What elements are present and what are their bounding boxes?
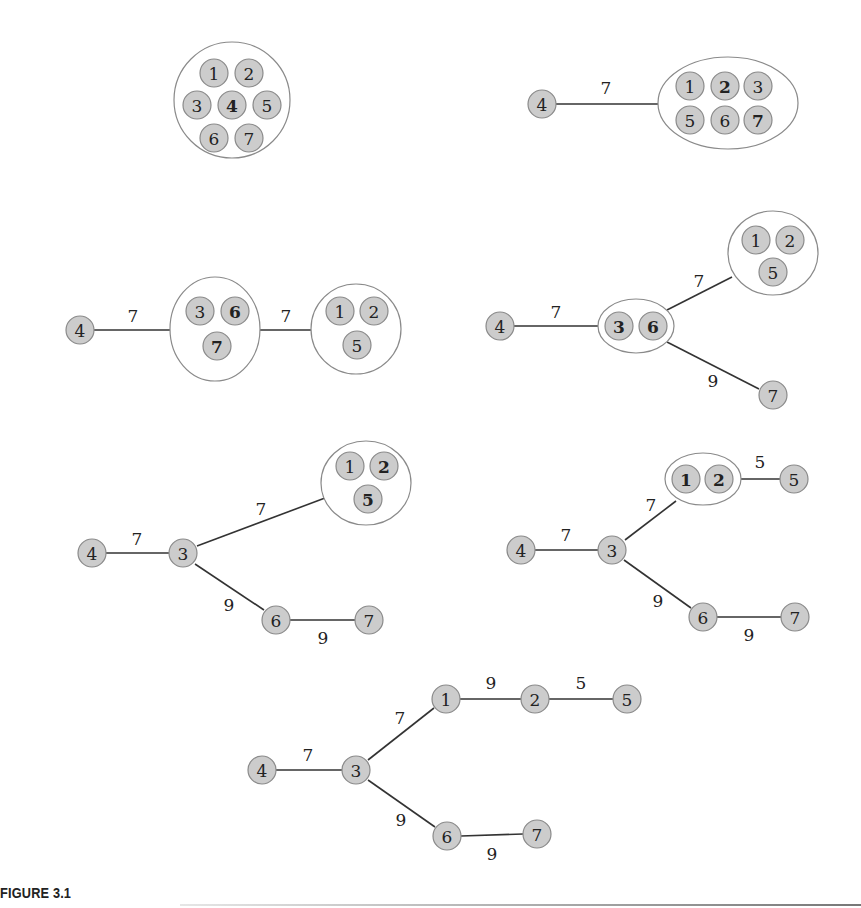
node: 1 [676, 72, 704, 100]
node: 7 [355, 606, 383, 634]
node-label: 3 [753, 77, 764, 97]
node: 3 [169, 539, 197, 567]
panel-7: 7795994312567 [248, 673, 641, 864]
node: 3 [186, 297, 214, 325]
edge-weight: 9 [653, 591, 664, 611]
panel-3: 774367125 [66, 277, 401, 381]
node: 6 [200, 124, 228, 152]
node-label: 2 [369, 302, 380, 322]
edge-weight: 9 [224, 595, 235, 615]
node-label: 6 [229, 302, 241, 322]
node-label: 2 [719, 77, 731, 97]
node-label: 4 [75, 321, 86, 341]
panel-2: 74123567 [528, 57, 798, 149]
node: 5 [253, 91, 281, 119]
node-label: 5 [352, 336, 363, 356]
edge-weight: 7 [646, 495, 657, 515]
node-label: 5 [622, 690, 633, 710]
node-label: 1 [345, 457, 356, 477]
node-label: 7 [364, 611, 375, 631]
cluster-group [311, 284, 401, 374]
node-label: 2 [713, 470, 725, 490]
node-label: 6 [442, 827, 453, 847]
node: 1 [672, 465, 700, 493]
node: 4 [218, 91, 246, 119]
node: 1 [336, 452, 364, 480]
node-label: 7 [752, 111, 764, 131]
node: 6 [689, 603, 717, 631]
node: 2 [360, 297, 388, 325]
edge-weight: 7 [601, 78, 612, 98]
node: 5 [343, 331, 371, 359]
node: 6 [433, 822, 461, 850]
node: 2 [521, 685, 549, 713]
node: 7 [781, 603, 809, 631]
node-label: 7 [768, 386, 779, 406]
edge-weight: 7 [256, 499, 267, 519]
node: 3 [605, 312, 633, 340]
edge-weight: 9 [318, 628, 329, 648]
edge-weight: 7 [303, 745, 314, 765]
node: 3 [342, 756, 370, 784]
node: 6 [262, 606, 290, 634]
node: 3 [598, 536, 626, 564]
node: 1 [742, 226, 770, 254]
node: 4 [78, 539, 106, 567]
node: 3 [744, 72, 772, 100]
edge-weight: 9 [396, 810, 407, 830]
node-label: 1 [335, 302, 346, 322]
edge [461, 834, 523, 836]
panel-6: 775994312567 [507, 452, 809, 645]
node-label: 4 [257, 761, 268, 781]
node-label: 1 [751, 231, 762, 251]
node: 5 [676, 106, 704, 134]
node: 7 [744, 106, 772, 134]
node: 5 [613, 685, 641, 713]
node-label: 2 [378, 457, 390, 477]
node: 5 [780, 465, 808, 493]
node: 1 [326, 297, 354, 325]
clustering-diagram: 1234567741235677743671257794361257779943… [0, 0, 861, 880]
edge-weight: 7 [694, 271, 705, 291]
node-label: 3 [195, 302, 206, 322]
edge-weight: 9 [708, 371, 719, 391]
node-label: 7 [790, 608, 801, 628]
node: 2 [235, 59, 263, 87]
node-label: 1 [680, 470, 692, 490]
node-label: 6 [209, 129, 220, 149]
node: 5 [354, 485, 382, 513]
node: 6 [711, 106, 739, 134]
node: 1 [200, 59, 228, 87]
node: 1 [432, 685, 460, 713]
node-label: 6 [720, 111, 731, 131]
node-label: 5 [362, 490, 374, 510]
edge-weight: 7 [551, 302, 562, 322]
node-label: 5 [685, 111, 696, 131]
node: 7 [235, 124, 263, 152]
node: 7 [523, 820, 551, 848]
node: 2 [711, 72, 739, 100]
cluster-group [170, 277, 260, 381]
edge-weight: 7 [281, 306, 292, 326]
node-label: 2 [785, 231, 796, 251]
node-label: 7 [244, 129, 255, 149]
cluster-group [658, 57, 798, 149]
node-label: 1 [441, 690, 452, 710]
node-label: 6 [698, 608, 709, 628]
node-label: 1 [209, 64, 220, 84]
panel-5: 77994312567 [78, 441, 411, 648]
node: 4 [507, 536, 535, 564]
edge-weight: 9 [487, 844, 498, 864]
node-label: 4 [537, 95, 548, 115]
node-label: 6 [271, 611, 282, 631]
node-label: 3 [351, 761, 362, 781]
node-label: 4 [226, 96, 238, 116]
node: 4 [486, 312, 514, 340]
node-label: 2 [244, 64, 255, 84]
edge-weight: 9 [486, 673, 497, 693]
edge-weight: 7 [395, 708, 406, 728]
panel-1: 1234567 [174, 42, 290, 158]
node: 5 [759, 258, 787, 286]
node-label: 7 [532, 825, 543, 845]
edge-weight: 7 [132, 529, 143, 549]
